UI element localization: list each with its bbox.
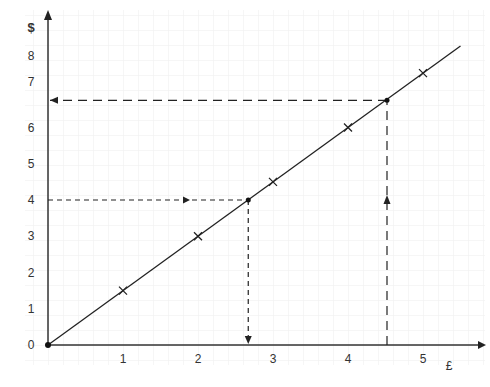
conversion-graph (0, 0, 490, 387)
intersection-dot (385, 98, 390, 103)
y-tick-label: 6 (28, 121, 35, 135)
intersection-dot (246, 198, 251, 203)
x-tick-label: 5 (420, 352, 427, 366)
x-tick-label: 3 (270, 352, 277, 366)
y-tick-label: 8 (28, 49, 35, 63)
y-tick-label: 0 (28, 338, 35, 352)
origin-dot (45, 342, 51, 348)
y-tick-label: 1 (28, 302, 35, 316)
y-tick-label: 2 (28, 266, 35, 280)
y-tick-label: 5 (28, 157, 35, 171)
y-axis-label: $ (27, 20, 34, 35)
y-tick-label: 3 (28, 229, 35, 243)
x-tick-label: 1 (120, 352, 127, 366)
x-tick-label: 2 (195, 352, 202, 366)
y-tick-label: 7 (28, 75, 35, 89)
x-tick-label: 4 (345, 352, 352, 366)
y-tick-label: 4 (28, 193, 35, 207)
x-axis-label: £ (446, 359, 453, 373)
